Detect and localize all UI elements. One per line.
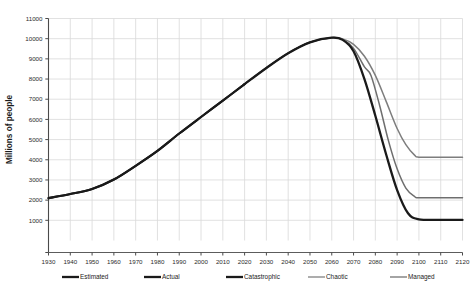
grid-layer bbox=[49, 19, 463, 241]
x-axis-tick-label: 1980 bbox=[151, 258, 165, 265]
legend-label-actual: Actual bbox=[162, 273, 180, 280]
series-layer bbox=[49, 37, 463, 220]
y-axis-title-text: Millions of people bbox=[5, 94, 14, 164]
legend-label-chaotic: Chaotic bbox=[326, 273, 348, 280]
x-axis-tick-label: 2040 bbox=[281, 258, 295, 265]
x-axis-tick-label: 1990 bbox=[172, 258, 186, 265]
x-axis-tick-label: 2030 bbox=[260, 258, 274, 265]
x-axis-tick-labels: 1930194019501960197019801990200020102020… bbox=[42, 258, 470, 265]
x-axis-tick-label: 1940 bbox=[63, 258, 77, 265]
x-axis-tick-label: 1950 bbox=[85, 258, 99, 265]
y-axis-title: Millions of people bbox=[5, 94, 14, 164]
population-projection-chart: 1000200030004000500060007000800090001000… bbox=[0, 0, 473, 294]
x-axis-tick-label: 2010 bbox=[216, 258, 230, 265]
x-axis-tick-label: 2060 bbox=[325, 258, 339, 265]
x-axis-tick-label: 2120 bbox=[456, 258, 470, 265]
y-axis-tick-label: 10000 bbox=[25, 35, 43, 42]
y-axis-tick-label: 5000 bbox=[29, 136, 43, 143]
chart-canvas: 1000200030004000500060007000800090001000… bbox=[0, 0, 473, 294]
x-axis-tick-label: 2020 bbox=[238, 258, 252, 265]
x-axis-tick-label: 1970 bbox=[129, 258, 143, 265]
y-axis-tick-label: 11000 bbox=[26, 15, 43, 22]
chart-legend: EstimatedActualCatastrophicChaoticManage… bbox=[62, 273, 435, 281]
y-axis-tick-label: 1000 bbox=[29, 217, 43, 224]
y-axis-tick-label: 6000 bbox=[29, 116, 43, 123]
x-axis-tick-label: 2050 bbox=[303, 258, 317, 265]
legend-label-estimated: Estimated bbox=[80, 273, 109, 280]
series-line-actual bbox=[49, 84, 245, 198]
x-axis-tick-label: 2000 bbox=[194, 258, 208, 265]
y-axis-tick-label: 2000 bbox=[29, 196, 43, 203]
x-axis-tick-label: 2080 bbox=[368, 258, 382, 265]
y-axis-tick-label: 7000 bbox=[29, 95, 43, 102]
y-axis-tick-label: 3000 bbox=[29, 176, 43, 183]
y-axis-tick-labels: 1000200030004000500060007000800090001000… bbox=[25, 15, 43, 224]
series-line-estimated bbox=[49, 84, 245, 198]
x-axis-tick-label: 1930 bbox=[42, 258, 56, 265]
x-axis-tick-label: 2090 bbox=[390, 258, 404, 265]
legend-label-managed: Managed bbox=[408, 273, 435, 281]
y-axis-tick-label: 8000 bbox=[29, 75, 43, 82]
y-axis-tick-label: 4000 bbox=[29, 156, 43, 163]
x-axis-tick-label: 2100 bbox=[412, 258, 426, 265]
x-axis-tick-label: 1960 bbox=[107, 258, 121, 265]
x-axis-tick-label: 2110 bbox=[434, 258, 448, 265]
x-axis-tick-label: 2070 bbox=[347, 258, 361, 265]
y-axis-tick-label: 9000 bbox=[29, 55, 43, 62]
legend-label-catastrophic: Catastrophic bbox=[244, 273, 281, 281]
